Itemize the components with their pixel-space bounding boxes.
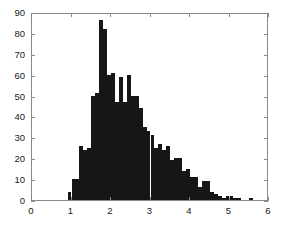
x-tick-label: 6 xyxy=(258,206,278,216)
y-tick-label: 10 xyxy=(14,175,25,185)
x-tick-label: 5 xyxy=(219,206,239,216)
y-tick-label: 0 xyxy=(20,196,25,206)
plot-area xyxy=(31,13,268,201)
y-tick-mark-right xyxy=(264,201,268,202)
histogram-figure: 0102030405060708090 0123456 xyxy=(0,0,285,229)
y-tick-label: 40 xyxy=(14,112,25,122)
x-tick-label: 1 xyxy=(61,206,81,216)
x-tick-label: 0 xyxy=(21,206,41,216)
x-tick-mark xyxy=(268,197,269,201)
histogram-bar xyxy=(237,198,241,200)
y-tick-label: 60 xyxy=(14,71,25,81)
x-tick-mark-top xyxy=(268,13,269,17)
y-tick-label: 20 xyxy=(14,154,25,164)
y-tick-label: 90 xyxy=(14,8,25,18)
y-tick-label: 70 xyxy=(14,50,25,60)
x-tick-label: 4 xyxy=(179,206,199,216)
histogram-bars xyxy=(32,14,267,200)
histogram-bar xyxy=(249,198,253,200)
y-tick-mark xyxy=(31,201,35,202)
y-tick-label: 50 xyxy=(14,92,25,102)
y-tick-label: 80 xyxy=(14,29,25,39)
x-tick-label: 2 xyxy=(100,206,120,216)
y-tick-label: 30 xyxy=(14,133,25,143)
x-tick-label: 3 xyxy=(140,206,160,216)
